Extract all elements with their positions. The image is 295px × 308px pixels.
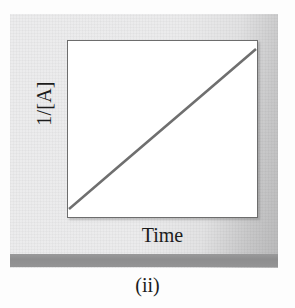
figure-root: 1/[A] Time (ii) [0,0,295,308]
plot-box [67,40,258,218]
panel-bottom-band [10,254,278,267]
y-axis-label: 1/[A] [33,44,56,164]
figure-caption: (ii) [0,274,295,297]
trend-line [70,50,255,208]
x-axis-label: Time [67,224,258,247]
plot-line-chart [68,41,257,217]
